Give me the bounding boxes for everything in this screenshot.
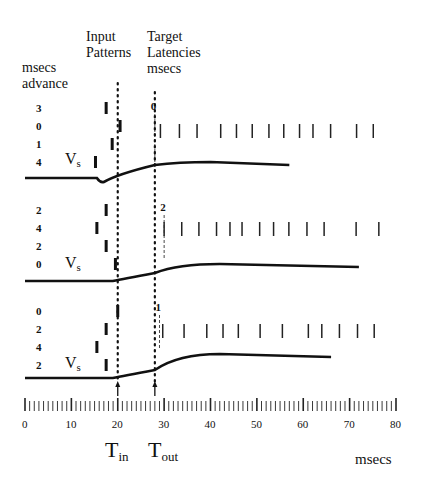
tick-label: 20	[112, 418, 123, 430]
input-bar	[111, 138, 114, 150]
input-bar	[105, 240, 108, 252]
t-in-sub: in	[118, 449, 128, 464]
input-bar	[105, 102, 108, 114]
tick-label: 40	[205, 418, 216, 430]
input-bar	[95, 341, 98, 353]
input-bar	[105, 204, 108, 216]
tick-label: 10	[65, 418, 76, 430]
vs-curve	[25, 264, 359, 281]
vs-curve	[25, 354, 331, 378]
tick-label: 80	[390, 418, 401, 430]
input-bar	[119, 120, 122, 132]
t-out-T: T	[148, 437, 161, 462]
tick-label: 0	[22, 418, 28, 430]
t-in-label: Tin	[105, 438, 129, 469]
t-in-T: T	[105, 437, 118, 462]
tick-label: 50	[251, 418, 262, 430]
tick-label: 30	[158, 418, 169, 430]
arrowhead-icon	[152, 381, 157, 387]
arrowhead-icon	[115, 381, 120, 387]
raster-plot	[0, 0, 423, 487]
tick-label: 60	[297, 418, 308, 430]
axis-unit-label: msecs	[355, 451, 392, 467]
input-bar	[114, 258, 117, 270]
input-bar	[105, 323, 108, 335]
vs-curve	[25, 162, 289, 182]
input-bar	[95, 222, 98, 234]
input-bar	[94, 156, 97, 168]
t-out-label: Tout	[148, 438, 178, 469]
t-out-sub: out	[161, 449, 178, 464]
input-bar	[105, 359, 108, 371]
tick-label: 70	[344, 418, 355, 430]
